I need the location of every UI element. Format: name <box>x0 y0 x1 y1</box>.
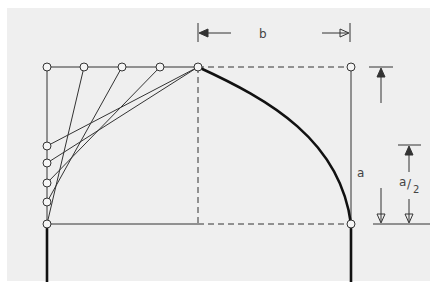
point-top-1 <box>43 63 51 71</box>
label-half-a-sep: / <box>407 177 412 191</box>
point-side-3 <box>43 179 51 187</box>
dimension-b <box>198 23 350 42</box>
construction-diagram: b a a / 2 <box>0 0 437 289</box>
point-top-2 <box>80 63 88 71</box>
tangent-line-5 <box>47 67 198 146</box>
arrow-up-icon <box>405 146 413 155</box>
tangent-line-4 <box>47 67 198 163</box>
arrow-left-icon <box>199 29 208 37</box>
point-top-3 <box>118 63 126 71</box>
tangent-line-3 <box>47 67 160 183</box>
right-curve <box>198 67 351 224</box>
point-bottom-left <box>43 220 51 228</box>
label-half-a-num: a <box>399 175 406 189</box>
label-half-a-den: 2 <box>413 184 419 195</box>
point-bottom-right <box>347 220 355 228</box>
label-b: b <box>259 27 267 41</box>
point-top-5 <box>194 63 202 71</box>
point-side-1 <box>43 142 51 150</box>
point-top-4 <box>156 63 164 71</box>
point-side-4 <box>43 198 51 206</box>
tangent-line-2 <box>47 67 122 202</box>
point-side-2 <box>43 159 51 167</box>
arrow-up-icon <box>377 68 385 77</box>
label-a: a <box>357 166 364 180</box>
point-top-right <box>347 63 355 71</box>
